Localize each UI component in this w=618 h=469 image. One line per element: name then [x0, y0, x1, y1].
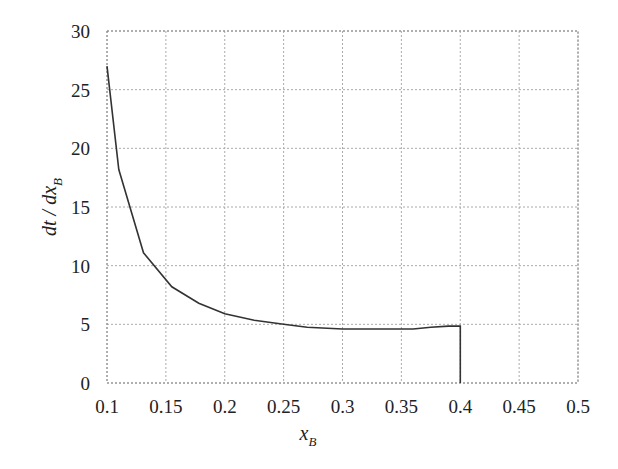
y-tick-label: 15 [71, 197, 90, 218]
y-axis-ticks: 051015202530 [71, 21, 90, 394]
y-tick-label: 25 [71, 80, 90, 101]
x-tick-label: 0.2 [213, 396, 237, 417]
x-tick-label: 0.25 [267, 396, 300, 417]
x-tick-label: 0.5 [566, 396, 590, 417]
x-tick-label: 0.3 [331, 396, 355, 417]
x-tick-label: 0.35 [385, 396, 418, 417]
y-tick-label: 20 [71, 138, 90, 159]
line-chart: 0.10.150.20.250.30.350.40.450.5 05101520… [0, 0, 618, 469]
y-axis-label: dt / dxB [38, 178, 65, 236]
y-tick-label: 30 [71, 21, 90, 42]
x-tick-label: 0.1 [95, 396, 119, 417]
x-tick-label: 0.45 [503, 396, 536, 417]
grid-lines [107, 31, 578, 383]
x-tick-label: 0.4 [448, 396, 472, 417]
x-axis-ticks: 0.10.150.20.250.30.350.40.450.5 [95, 396, 590, 417]
y-tick-label: 0 [81, 373, 91, 394]
y-tick-label: 10 [71, 256, 90, 277]
x-axis-label: xB [299, 422, 317, 449]
y-tick-label: 5 [81, 314, 91, 335]
x-tick-label: 0.15 [149, 396, 182, 417]
